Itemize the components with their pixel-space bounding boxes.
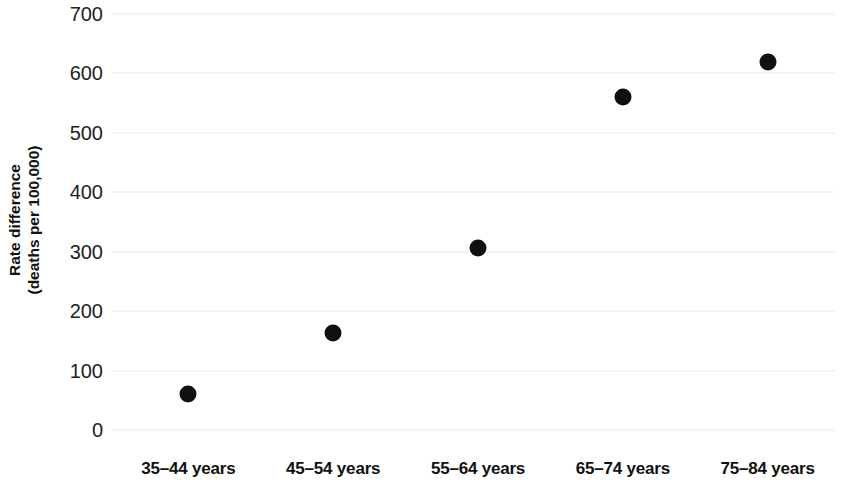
x-axis-tick-label: 55–64 years	[431, 458, 525, 479]
data-point[interactable]	[470, 240, 487, 257]
plot-area	[111, 0, 835, 488]
y-axis-tick-label: 300	[41, 242, 103, 262]
y-axis-tick-labels: 0100200300400500600700	[41, 0, 103, 488]
x-axis-tick-label: 45–54 years	[286, 458, 380, 479]
y-axis-tick-label: 600	[41, 63, 103, 83]
x-axis-tick-labels: 35–44 years45–54 years55–64 years65–74 y…	[111, 458, 835, 488]
y-axis-title-line-1: Rate difference	[5, 145, 24, 294]
x-axis-tick-label: 35–44 years	[141, 458, 235, 479]
gridline	[111, 132, 835, 133]
data-point[interactable]	[325, 325, 342, 342]
y-axis-tick-label: 200	[41, 301, 103, 321]
x-axis-tick-label: 65–74 years	[576, 458, 670, 479]
data-point[interactable]	[180, 385, 197, 402]
gridline	[111, 192, 835, 193]
gridline	[111, 430, 835, 431]
y-axis-tick-label: 0	[41, 420, 103, 440]
rate-difference-scatter-chart: Rate difference (deaths per 100,000) 010…	[0, 0, 841, 488]
y-axis-tick-label: 100	[41, 361, 103, 381]
data-point[interactable]	[614, 88, 631, 105]
gridline	[111, 370, 835, 371]
y-axis-tick-label: 700	[41, 4, 103, 24]
gridline	[111, 14, 835, 15]
gridline	[111, 73, 835, 74]
y-axis-tick-label: 400	[41, 182, 103, 202]
y-axis-tick-label: 500	[41, 123, 103, 143]
gridline	[111, 311, 835, 312]
x-axis-tick-label: 75–84 years	[720, 458, 814, 479]
data-point[interactable]	[759, 53, 776, 70]
